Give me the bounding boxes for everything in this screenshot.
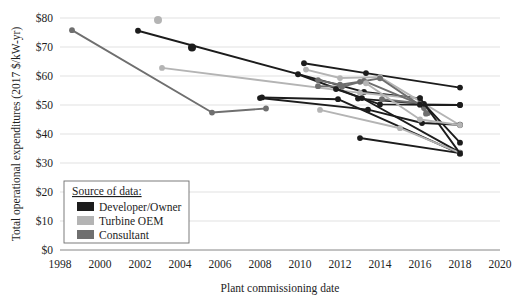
data-point-marker (209, 110, 215, 116)
data-point-marker (457, 140, 463, 146)
legend-item-label: Developer/Owner (99, 201, 182, 214)
data-point-marker (423, 111, 429, 117)
data-point-marker (457, 85, 463, 91)
data-point-marker (397, 125, 403, 131)
y-tick-label: $0 (42, 244, 54, 256)
data-point-marker (159, 65, 165, 71)
data-point-marker (363, 80, 369, 86)
data-point-marker (379, 96, 385, 102)
data-point-marker (263, 106, 269, 112)
data-point-marker (457, 122, 463, 128)
legend-title: Source of data: (72, 185, 142, 197)
data-point-marker (363, 70, 369, 76)
data-point-marker (417, 102, 423, 108)
y-tick-label: $10 (36, 215, 54, 227)
legend-item-label: Consultant (99, 229, 150, 241)
x-tick-label: 2012 (329, 258, 352, 270)
x-tick-label: 2000 (89, 258, 112, 270)
x-axis-title: Plant commissioning date (221, 282, 340, 295)
x-tick-label: 2016 (409, 258, 432, 270)
data-point-marker (357, 135, 363, 141)
data-point-marker (317, 107, 323, 113)
data-point-marker (365, 107, 371, 113)
data-point-marker (315, 77, 321, 83)
data-point-marker (315, 83, 321, 89)
series-line (72, 30, 266, 112)
opex-line-chart: $0$10$20$30$40$50$60$70$8019982000200220… (0, 0, 519, 299)
x-tick-label: 2006 (209, 258, 232, 270)
y-tick-label: $50 (36, 99, 54, 111)
x-tick-label: 2008 (249, 258, 272, 270)
legend-item-label: Turbine OEM (99, 215, 163, 227)
y-tick-label: $20 (36, 186, 54, 198)
y-tick-label: $60 (36, 70, 54, 82)
y-tick-label: $70 (36, 41, 54, 53)
y-tick-label: $80 (36, 12, 54, 24)
x-tick-label: 2018 (449, 258, 472, 270)
data-point-marker (339, 84, 345, 90)
x-tick-label: 2020 (489, 258, 512, 270)
y-tick-label: $30 (36, 157, 54, 169)
data-point-marker (457, 151, 463, 157)
series-line (262, 97, 460, 153)
data-point-marker (303, 67, 309, 73)
data-point-marker (257, 95, 263, 101)
series-line (360, 138, 460, 153)
series-line (138, 31, 420, 99)
legend-swatch (77, 216, 94, 225)
x-tick-label: 2004 (169, 258, 192, 270)
legend-swatch (77, 230, 94, 239)
data-point-marker (301, 60, 307, 66)
x-tick-label: 1998 (49, 258, 72, 270)
data-point-marker (457, 102, 463, 108)
x-tick-label: 2010 (289, 258, 312, 270)
data-point-marker (335, 96, 341, 102)
data-point-marker (417, 95, 423, 101)
x-tick-label: 2002 (129, 258, 152, 270)
data-point-marker (135, 28, 141, 34)
x-tick-label: 2014 (369, 258, 392, 270)
data-point-marker (357, 90, 363, 96)
series-line (320, 110, 460, 153)
series-group (69, 16, 463, 157)
data-point-marker (337, 75, 343, 81)
y-tick-label: $40 (36, 128, 54, 140)
data-point-marker (377, 75, 383, 81)
data-point-marker (417, 117, 423, 123)
data-point-marker (333, 86, 339, 92)
legend-swatch (77, 202, 94, 211)
data-point-marker (377, 102, 383, 108)
data-point-marker (154, 16, 162, 24)
y-axis-title: Total operational expenditures (2017 $/k… (10, 27, 23, 242)
chart-canvas: $0$10$20$30$40$50$60$70$8019982000200220… (0, 0, 519, 299)
data-point-marker (188, 44, 196, 52)
data-point-marker (69, 27, 75, 33)
data-point-marker (355, 96, 361, 102)
data-point-marker (295, 71, 301, 77)
